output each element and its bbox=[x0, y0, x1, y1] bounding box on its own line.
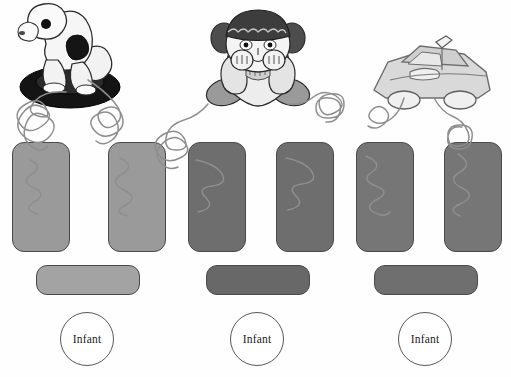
infant-badge: Infant bbox=[398, 312, 452, 366]
setup-group-2: Infant bbox=[172, 0, 340, 377]
right-speaker-panel bbox=[108, 142, 166, 252]
left-speaker-panel bbox=[188, 142, 246, 252]
setup-group-1: Infant bbox=[0, 0, 172, 377]
figure-canvas: Infant bbox=[0, 0, 511, 377]
base-bar bbox=[206, 265, 310, 295]
base-bar bbox=[374, 265, 478, 295]
left-speaker-panel bbox=[12, 142, 70, 252]
infant-badge-label: Infant bbox=[411, 333, 440, 345]
infant-badge-label: Infant bbox=[73, 333, 102, 345]
right-speaker-panel bbox=[444, 142, 502, 252]
left-speaker-panel bbox=[356, 142, 414, 252]
infant-badge: Infant bbox=[230, 312, 284, 366]
rocking-horse-on-tire-toy bbox=[10, 2, 130, 110]
right-speaker-panel bbox=[276, 142, 334, 252]
infant-badge-label: Infant bbox=[243, 333, 272, 345]
setup-group-3: Infant bbox=[340, 0, 511, 377]
teddy-bear-doll-toy bbox=[204, 4, 312, 112]
toy-car bbox=[368, 32, 498, 122]
base-bar bbox=[36, 265, 140, 295]
infant-badge: Infant bbox=[60, 312, 114, 366]
